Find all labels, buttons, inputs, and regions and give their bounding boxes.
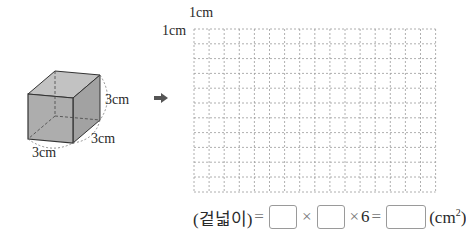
surface-area-equation: (겉넓이) = × × 6 = (cm2)	[193, 204, 466, 230]
grid-paper	[193, 28, 437, 194]
answer-box-result[interactable]	[386, 205, 426, 229]
cube-height-label: 3cm	[105, 93, 129, 107]
cube-depth-label: 3cm	[91, 132, 115, 146]
surface-area-label: (겉넓이)	[193, 205, 252, 230]
equals-sign: =	[254, 207, 264, 227]
equals-sign-2: =	[372, 207, 382, 227]
answer-box-1[interactable]	[269, 205, 297, 229]
right-arrow-icon	[154, 93, 168, 103]
answer-box-2[interactable]	[317, 205, 345, 229]
grid-left-cell-label: 1cm	[162, 24, 186, 38]
grid-top-cell-label: 1cm	[189, 6, 213, 20]
times-sign-1: ×	[302, 207, 312, 227]
unit-label: (cm2)	[429, 207, 466, 228]
cube-diagram	[0, 60, 150, 180]
cube-width-label: 3cm	[32, 146, 56, 160]
factor-six: 6	[361, 207, 370, 227]
times-sign-2: ×	[350, 207, 360, 227]
